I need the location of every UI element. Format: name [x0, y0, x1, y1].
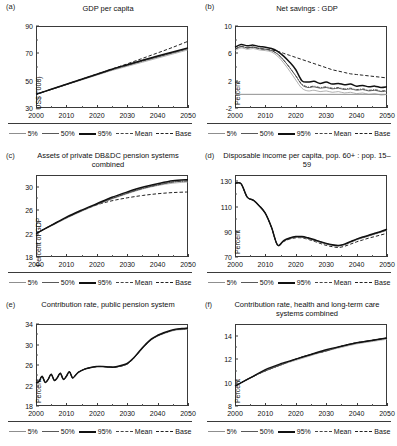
legend-swatch-icon: [208, 428, 225, 434]
series-line-mean: [235, 338, 387, 386]
legend-item[interactable]: 50%: [241, 428, 274, 435]
panel-b: (b) Net savings : GDP Percent -226102000…: [199, 0, 397, 148]
x-tick-mark: [188, 403, 189, 406]
legend-swatch-icon: [42, 279, 59, 285]
legend-b: 5%50%95%MeanBase: [205, 126, 393, 140]
x-tick-label: 2030: [318, 112, 334, 119]
series-line-5pct: [235, 339, 387, 386]
legend-item[interactable]: 5%: [9, 428, 38, 435]
series-line-mean: [36, 181, 188, 234]
panel-e: (e) Contribution rate, public pension sy…: [0, 298, 198, 446]
x-tick-label: 2040: [150, 112, 166, 119]
series-lines-e: [36, 324, 188, 406]
legend-item[interactable]: 5%: [9, 279, 38, 286]
legend-item[interactable]: Mean: [315, 428, 352, 435]
legend-item[interactable]: 50%: [42, 279, 75, 286]
panel-title-b: Net savings : GDP: [221, 4, 393, 13]
legend-item[interactable]: Mean: [116, 130, 153, 137]
legend-item[interactable]: 5%: [9, 130, 38, 137]
legend-item[interactable]: 95%: [278, 130, 311, 137]
legend-item[interactable]: Base: [156, 279, 191, 286]
legend-label: Base: [374, 130, 390, 137]
legend-item[interactable]: Base: [355, 130, 390, 137]
y-tick-label: 30: [25, 105, 33, 112]
legend-item[interactable]: 50%: [241, 130, 274, 137]
panel-title-d: Disposable income per capita, pop. 60+ :…: [221, 151, 393, 169]
series-line-base: [235, 46, 387, 77]
y-tick-label: 22: [25, 230, 33, 237]
legend-swatch-icon: [208, 279, 225, 285]
panel-title-c: Assets of private DB&DC pension systems …: [22, 151, 194, 169]
legend-swatch-icon: [156, 130, 173, 136]
x-tick-label: 2030: [119, 112, 135, 119]
plot-area-d: Percent 70901101302000201020202030204020…: [235, 175, 387, 257]
legend-swatch-icon: [9, 130, 26, 136]
x-tick-label: 2030: [119, 410, 135, 417]
legend-item[interactable]: Mean: [315, 130, 352, 137]
series-line-95pct: [235, 183, 387, 246]
legend-item[interactable]: 95%: [278, 428, 311, 435]
legend-item[interactable]: Base: [355, 428, 390, 435]
legend-item[interactable]: 5%: [208, 130, 237, 137]
legend-item[interactable]: Mean: [116, 428, 153, 435]
x-tick-label: 2000: [28, 261, 44, 268]
legend-item[interactable]: 5%: [208, 428, 237, 435]
legend-item[interactable]: Base: [156, 428, 191, 435]
legend-swatch-icon: [42, 130, 59, 136]
legend-label: Base: [374, 428, 390, 435]
x-tick-mark: [387, 403, 388, 406]
panel-f: (f) Contribution rate, health and long-t…: [199, 298, 397, 446]
legend-item[interactable]: 50%: [241, 279, 274, 286]
legend-item[interactable]: 95%: [79, 279, 112, 286]
y-tick-label: 110: [221, 203, 232, 210]
x-tick-label: 2040: [349, 410, 365, 417]
x-tick-label: 2020: [89, 261, 105, 268]
legend-item[interactable]: 95%: [79, 428, 112, 435]
x-tick-label: 2040: [150, 410, 166, 417]
legend-item[interactable]: Mean: [116, 279, 153, 286]
legend-item[interactable]: 95%: [278, 279, 311, 286]
legend-label: Base: [374, 279, 390, 286]
legend-item[interactable]: 95%: [79, 130, 112, 137]
legend-swatch-icon: [241, 279, 258, 285]
panel-title-f: Contribution rate, health and long-term …: [221, 300, 393, 318]
legend-item[interactable]: 5%: [208, 279, 237, 286]
y-tick-label: 22: [25, 382, 33, 389]
legend-label: 5%: [28, 130, 38, 137]
legend-label: 50%: [61, 428, 75, 435]
legend-item[interactable]: Mean: [315, 279, 352, 286]
legend-label: 50%: [260, 130, 274, 137]
x-tick-label: 2010: [258, 410, 274, 417]
panel-label-b: (b): [205, 2, 214, 11]
x-tick-label: 2010: [258, 112, 274, 119]
legend-swatch-icon: [9, 428, 26, 434]
legend-swatch-icon: [355, 428, 372, 434]
legend-label: Mean: [135, 279, 153, 286]
legend-label: Mean: [135, 130, 153, 137]
y-tick-label: 10: [224, 23, 232, 30]
legend-item[interactable]: Base: [156, 130, 191, 137]
legend-c: 5%50%95%MeanBase: [6, 275, 194, 289]
multi-panel-figure: (a) GDP per capita US$ ('000) 3050709020…: [0, 0, 397, 446]
legend-item[interactable]: Base: [355, 279, 390, 286]
legend-label: Mean: [334, 428, 352, 435]
panel-title-a: GDP per capita: [22, 4, 194, 13]
y-tick-label: 90: [224, 228, 232, 235]
legend-swatch-icon: [116, 279, 133, 285]
legend-swatch-icon: [156, 428, 173, 434]
y-tick-label: -2: [226, 105, 232, 112]
x-tick-label: 2020: [89, 410, 105, 417]
y-tick-label: 34: [25, 321, 33, 328]
y-tick-label: 8: [228, 403, 232, 410]
series-lines-d: [235, 175, 387, 257]
x-tick-label: 2000: [227, 261, 243, 268]
x-tick-label: 2050: [180, 410, 196, 417]
legend-label: 5%: [28, 428, 38, 435]
x-tick-label: 2040: [349, 112, 365, 119]
panel-d: (d) Disposable income per capita, pop. 6…: [199, 149, 397, 297]
legend-item[interactable]: 50%: [42, 428, 75, 435]
legend-label: 50%: [260, 428, 274, 435]
legend-item[interactable]: 50%: [42, 130, 75, 137]
y-tick-label: 70: [224, 254, 232, 261]
x-tick-label: 2050: [180, 261, 196, 268]
